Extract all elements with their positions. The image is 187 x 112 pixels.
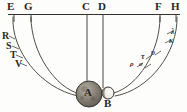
label-upsilon: υ xyxy=(151,49,155,57)
tick-upsilon xyxy=(155,51,161,55)
arc-h-outer-right xyxy=(115,17,177,96)
diagram-canvas xyxy=(0,0,187,112)
vertical-ticks-group xyxy=(14,14,176,22)
label-h: H xyxy=(171,1,180,12)
label-c: C xyxy=(82,1,90,12)
label-v: V xyxy=(15,59,22,69)
plumb-lines-group xyxy=(87,14,103,88)
arc-e-outer-left xyxy=(13,17,78,96)
tick-r xyxy=(9,36,15,39)
label-lambda: λ xyxy=(171,28,175,36)
label-kappa: κ xyxy=(169,37,173,45)
label-d: D xyxy=(98,1,106,12)
arc-g-inner-left xyxy=(31,17,80,94)
label-e: E xyxy=(7,1,15,12)
label-b: B xyxy=(104,98,112,109)
label-f: F xyxy=(155,1,162,12)
label-a: A xyxy=(84,87,92,98)
label-sigma: σ xyxy=(139,61,143,68)
label-rho: ρ xyxy=(130,61,134,68)
label-g: G xyxy=(24,1,33,12)
engraving-figure: E G C D F H R S T V A B τ υ ρ σ λ κ xyxy=(0,0,187,112)
